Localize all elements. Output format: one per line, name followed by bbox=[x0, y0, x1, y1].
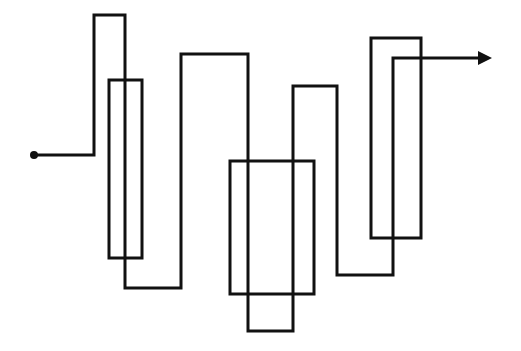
rectangle-2 bbox=[230, 161, 314, 294]
start-dot-icon bbox=[30, 151, 38, 159]
overlapping-rectangles bbox=[109, 38, 421, 294]
meander-line-diagram bbox=[0, 0, 521, 351]
rectangle-3 bbox=[371, 38, 421, 238]
arrow-head-icon bbox=[478, 51, 492, 65]
meander-path bbox=[34, 15, 480, 331]
